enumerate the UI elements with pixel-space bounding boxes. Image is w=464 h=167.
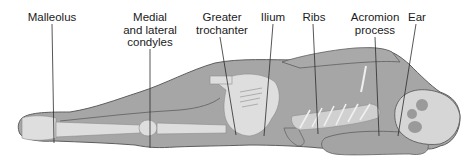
label-text: process bbox=[351, 24, 400, 37]
label-condyles: Medial and lateral condyles bbox=[123, 11, 177, 49]
label-text: Medial bbox=[123, 11, 177, 24]
leader-line-malleolus bbox=[52, 24, 54, 143]
label-text: Acromion bbox=[351, 11, 400, 24]
label-text: Ribs bbox=[302, 11, 325, 24]
leader-line-ilium bbox=[264, 24, 273, 136]
label-greater-trochanter: Greater trochanter bbox=[196, 11, 248, 36]
anatomy-diagram: Malleolus Medial and lateral condyles Gr… bbox=[0, 0, 464, 167]
label-text: and lateral bbox=[123, 24, 177, 37]
label-text: trochanter bbox=[196, 24, 248, 37]
label-text: condyles bbox=[123, 36, 177, 49]
label-text: Malleolus bbox=[28, 11, 77, 24]
leader-line-acromion-process bbox=[375, 37, 379, 136]
label-text: Ear bbox=[408, 11, 426, 24]
label-acromion-process: Acromion process bbox=[351, 11, 400, 36]
label-ribs: Ribs bbox=[302, 11, 325, 24]
label-text: Greater bbox=[196, 11, 248, 24]
leader-line-ribs bbox=[313, 24, 318, 134]
label-malleolus: Malleolus bbox=[28, 11, 77, 24]
label-text: Ilium bbox=[261, 11, 285, 24]
leader-line-ear bbox=[398, 24, 416, 136]
label-ilium: Ilium bbox=[261, 11, 285, 24]
leader-line-greater-trochanter bbox=[220, 37, 236, 135]
label-ear: Ear bbox=[408, 11, 426, 24]
